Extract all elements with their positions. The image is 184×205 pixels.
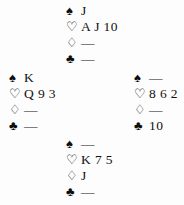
heart-icon: ♡ [9,86,22,102]
west-spades-row: ♠ K [9,70,56,86]
west-diamonds-row: ♢ — [9,102,56,118]
north-hearts-row: ♡ A J 10 [66,19,118,35]
south-hearts-row: ♡ K 7 5 [66,152,113,168]
club-icon: ♣ [66,184,79,200]
club-icon: ♣ [9,118,22,134]
east-spades-ranks: — [147,70,163,86]
club-icon: ♣ [134,118,147,134]
north-spades-ranks: J [79,3,87,19]
spade-icon: ♠ [134,70,147,86]
east-hearts-ranks: 8 6 2 [147,86,178,102]
west-hearts-row: ♡ Q 9 3 [9,86,56,102]
hand-north: ♠ J ♡ A J 10 ♢ — ♣ — [66,3,118,67]
west-clubs-row: ♣ — [9,118,56,134]
bridge-hand-diagram: ♠ J ♡ A J 10 ♢ — ♣ — ♠ K ♡ Q 9 3 ♢ — ♣ [0,0,184,205]
north-spades-row: ♠ J [66,3,118,19]
diamond-icon: ♢ [9,102,22,118]
east-hearts-row: ♡ 8 6 2 [134,86,178,102]
hand-south: ♠ — ♡ K 7 5 ♢ J ♣ — [66,136,113,200]
north-clubs-ranks: — [79,51,95,67]
hand-east: ♠ — ♡ 8 6 2 ♢ — ♣ 10 [134,70,178,134]
spade-icon: ♠ [66,136,79,152]
hand-west: ♠ K ♡ Q 9 3 ♢ — ♣ — [9,70,56,134]
south-spades-row: ♠ — [66,136,113,152]
north-diamonds-ranks: — [79,35,95,51]
south-hearts-ranks: K 7 5 [79,152,113,168]
diamond-icon: ♢ [66,35,79,51]
east-diamonds-ranks: — [147,102,163,118]
heart-icon: ♡ [134,86,147,102]
west-hearts-ranks: Q 9 3 [22,86,56,102]
diamond-icon: ♢ [66,168,79,184]
heart-icon: ♡ [66,19,79,35]
north-hearts-ranks: A J 10 [79,19,118,35]
south-clubs-row: ♣ — [66,184,113,200]
south-clubs-ranks: — [79,184,95,200]
club-icon: ♣ [66,51,79,67]
diamond-icon: ♢ [134,102,147,118]
west-spades-ranks: K [22,70,34,86]
east-clubs-ranks: 10 [147,118,163,134]
north-clubs-row: ♣ — [66,51,118,67]
east-diamonds-row: ♢ — [134,102,178,118]
south-diamonds-ranks: J [79,168,87,184]
south-spades-ranks: — [79,136,95,152]
north-diamonds-row: ♢ — [66,35,118,51]
south-diamonds-row: ♢ J [66,168,113,184]
heart-icon: ♡ [66,152,79,168]
spade-icon: ♠ [66,3,79,19]
east-clubs-row: ♣ 10 [134,118,178,134]
east-spades-row: ♠ — [134,70,178,86]
west-clubs-ranks: — [22,118,38,134]
west-diamonds-ranks: — [22,102,38,118]
spade-icon: ♠ [9,70,22,86]
